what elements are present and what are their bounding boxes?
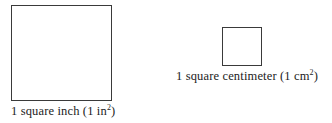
square-inch-caption-text: 1 square inch (1 in <box>11 104 107 118</box>
square-centimeter-caption-text: 1 square centimeter (1 cm <box>176 69 310 83</box>
square-inch-caption-tail: ) <box>111 104 115 118</box>
square-centimeter-shape <box>222 27 262 66</box>
figure-canvas: 1 square inch (1 in2) 1 square centimete… <box>0 0 332 123</box>
square-centimeter-caption: 1 square centimeter (1 cm2) <box>176 69 318 83</box>
square-inch-shape <box>11 5 112 101</box>
square-inch-caption: 1 square inch (1 in2) <box>11 104 115 118</box>
square-centimeter-caption-tail: ) <box>314 69 318 83</box>
